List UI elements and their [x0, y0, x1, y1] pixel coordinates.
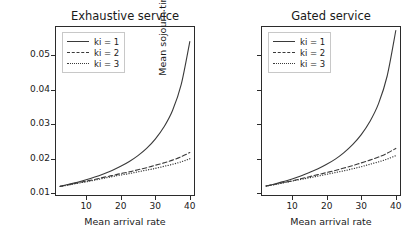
legend-item-label: ki = 1 — [94, 37, 119, 47]
legend-line-swatch-dotted-icon — [273, 59, 295, 68]
legend: ki = 1ki = 2ki = 3 — [62, 32, 125, 73]
x-tick-label: 30 — [140, 201, 170, 211]
figure-canvas: Exhaustive service Mean sojourn time, s … — [0, 0, 412, 239]
legend-line-swatch-dashed-icon — [67, 48, 89, 57]
legend-item-label: ki = 2 — [94, 48, 119, 58]
y-tick-label: 0.03 — [8, 118, 50, 128]
x-tick-label: 10 — [277, 201, 307, 211]
legend-item[interactable]: ki = 2 — [67, 47, 119, 58]
x-tick-mark — [121, 196, 122, 200]
y-tick-label: 0.05 — [8, 49, 50, 59]
legend-item[interactable]: ki = 3 — [273, 58, 325, 69]
x-tick-mark — [190, 196, 191, 200]
x-tick-label: 30 — [346, 201, 376, 211]
x-tick-label: 40 — [381, 201, 411, 211]
x-tick-label: 20 — [106, 201, 136, 211]
legend-item-label: ki = 3 — [94, 59, 119, 69]
legend-line-swatch-solid-icon — [67, 37, 89, 46]
x-tick-label: 40 — [175, 201, 205, 211]
legend-line-swatch-solid-icon — [273, 37, 295, 46]
x-tick-label: 10 — [71, 201, 101, 211]
x-tick-mark — [396, 196, 397, 200]
legend-item-label: ki = 1 — [300, 37, 325, 47]
y-tick-label: 0.01 — [8, 187, 50, 197]
legend-item[interactable]: ki = 1 — [67, 36, 119, 47]
legend: ki = 1ki = 2ki = 3 — [268, 32, 331, 73]
y-tick-label: 0.04 — [8, 84, 50, 94]
panel-gated: Gated service Mean sojourn time, s Mean … — [206, 0, 412, 239]
x-tick-mark — [361, 196, 362, 200]
x-tick-mark — [155, 196, 156, 200]
legend-item[interactable]: ki = 2 — [273, 47, 325, 58]
y-axis-label: Mean sojourn time, s — [157, 0, 168, 111]
legend-item-label: ki = 3 — [300, 59, 325, 69]
y-tick-label: 0.02 — [8, 153, 50, 163]
panel-title: Exhaustive service — [55, 9, 195, 23]
panel-title: Gated service — [261, 9, 401, 23]
x-tick-mark — [292, 196, 293, 200]
x-tick-label: 20 — [312, 201, 342, 211]
x-tick-mark — [327, 196, 328, 200]
legend-item-label: ki = 2 — [300, 48, 325, 58]
x-tick-mark — [86, 196, 87, 200]
legend-item[interactable]: ki = 3 — [67, 58, 119, 69]
x-axis-label: Mean arrival rate — [261, 216, 401, 227]
legend-line-swatch-dotted-icon — [67, 59, 89, 68]
legend-item[interactable]: ki = 1 — [273, 36, 325, 47]
legend-line-swatch-dashed-icon — [273, 48, 295, 57]
x-axis-label: Mean arrival rate — [55, 216, 195, 227]
panel-exhaustive: Exhaustive service Mean sojourn time, s … — [0, 0, 206, 239]
